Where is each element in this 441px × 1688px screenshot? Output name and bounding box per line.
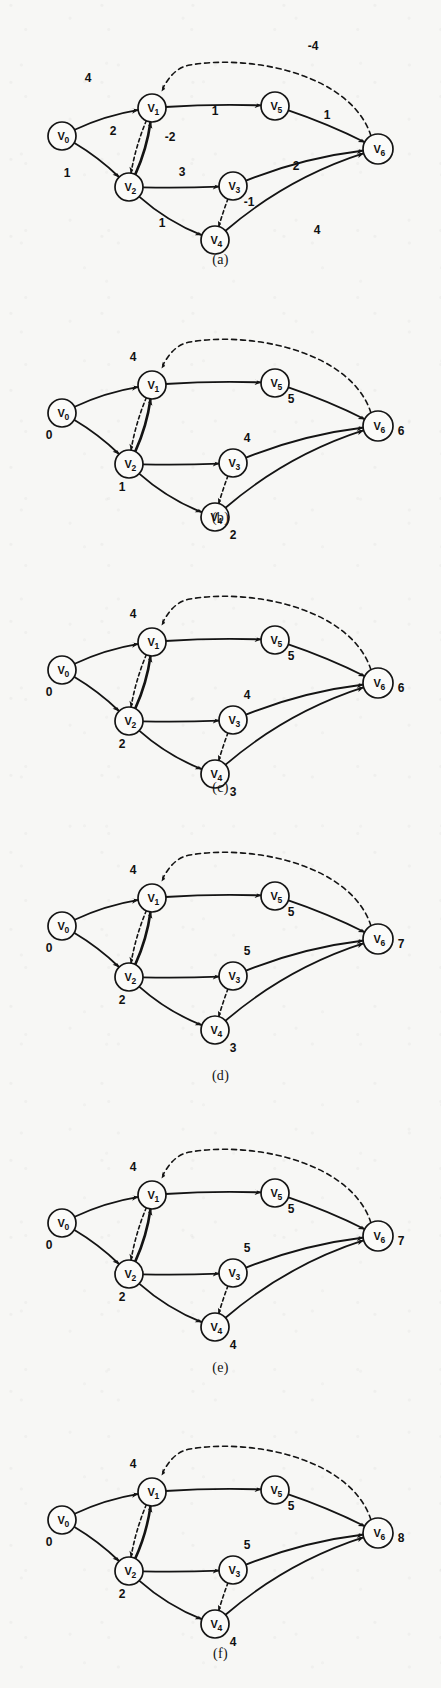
node-v4[interactable]: V4 <box>201 1610 229 1638</box>
node-distance-v2: 2 <box>119 1290 126 1304</box>
edge-v2-v1 <box>135 121 152 174</box>
node-distance-v3: 4 <box>244 431 251 445</box>
node-subscript-v2: 2 <box>132 976 137 986</box>
edge-weight-v3v6: 2 <box>293 159 300 173</box>
node-v2[interactable]: V2 <box>115 1557 143 1585</box>
node-v3[interactable]: V3 <box>219 449 247 477</box>
node-v1[interactable]: V1 <box>138 371 166 399</box>
node-v4[interactable]: V4 <box>201 226 229 254</box>
node-v0[interactable]: V0 <box>48 399 76 427</box>
edge-v0-v2 <box>74 677 120 712</box>
node-v4[interactable]: V4 <box>201 1313 229 1341</box>
node-v5[interactable]: V5 <box>261 626 289 654</box>
node-subscript-v4: 4 <box>218 1326 223 1336</box>
node-distance-v0: 0 <box>46 1535 53 1549</box>
node-v6[interactable]: V6 <box>363 134 393 164</box>
node-v0[interactable]: V0 <box>48 912 76 940</box>
node-v3[interactable]: V3 <box>219 1259 247 1287</box>
node-v5[interactable]: V5 <box>261 369 289 397</box>
node-distance-v6: 8 <box>398 1531 405 1545</box>
node-subscript-v5: 5 <box>278 639 283 649</box>
edge-v0-v1 <box>74 1492 139 1514</box>
edge-v2-v3 <box>142 1271 219 1277</box>
node-v3[interactable]: V3 <box>219 962 247 990</box>
edge-v5-v6 <box>288 900 366 932</box>
node-distance-v6: 7 <box>398 1234 405 1248</box>
node-v5[interactable]: V5 <box>261 1476 289 1504</box>
edge-v3-v6 <box>245 149 363 181</box>
node-subscript-v5: 5 <box>278 1192 283 1202</box>
node-v2[interactable]: V2 <box>115 1260 143 1288</box>
edge-v0-v1 <box>74 898 139 920</box>
graph-panel-d: V0V1V2V3V4V5V60425357 <box>0 808 441 1058</box>
panel-caption-a: (a) <box>0 252 441 268</box>
node-v4[interactable]: V4 <box>201 1016 229 1044</box>
node-v0[interactable]: V0 <box>48 1209 76 1237</box>
node-v2[interactable]: V2 <box>115 963 143 991</box>
edge-v2-v3 <box>142 974 219 980</box>
edge-v1-v5 <box>165 1189 261 1195</box>
node-subscript-v1: 1 <box>155 1194 160 1204</box>
node-subscript-v6: 6 <box>381 1532 386 1542</box>
edge-weight-v1v5: 1 <box>212 104 219 118</box>
panel-caption-f: (f) <box>0 1646 441 1662</box>
edge-v0-v2 <box>74 143 120 178</box>
edge-v3-v6 <box>245 1533 363 1565</box>
node-v0[interactable]: V0 <box>48 656 76 684</box>
node-v1[interactable]: V1 <box>138 884 166 912</box>
edge-v1-v5 <box>165 379 261 385</box>
node-distance-v3: 4 <box>244 688 251 702</box>
edge-v5-v6 <box>288 644 366 676</box>
node-v6[interactable]: V6 <box>363 1221 393 1251</box>
node-distance-v6: 6 <box>398 681 405 695</box>
node-distance-v1: 4 <box>130 350 137 364</box>
edge-weight-v5v6: 1 <box>324 108 331 122</box>
node-v1[interactable]: V1 <box>138 628 166 656</box>
edge-v3-v6 <box>245 683 363 715</box>
edge-v2-v1 <box>135 1505 152 1558</box>
node-v0[interactable]: V0 <box>48 122 76 150</box>
graph-svg: V0V1V2V3V4V5V60425457 <box>0 1105 441 1355</box>
edge-weight-v2v1: 2 <box>110 124 117 138</box>
node-v6[interactable]: V6 <box>363 411 393 441</box>
edge-v2-v3 <box>142 461 219 467</box>
edge-weight-v0v2: 1 <box>64 166 71 180</box>
node-subscript-v1: 1 <box>155 384 160 394</box>
node-v1[interactable]: V1 <box>138 94 166 122</box>
node-v3[interactable]: V3 <box>219 1556 247 1584</box>
panel-caption-b: (b) <box>0 510 441 526</box>
node-distance-v2: 2 <box>119 1587 126 1601</box>
node-subscript-v2: 2 <box>132 1273 137 1283</box>
node-subscript-v0: 0 <box>65 925 70 935</box>
edge-v2-v4 <box>139 473 202 512</box>
edge-v3-v4 <box>218 988 228 1017</box>
panel-caption-d: (d) <box>0 1068 441 1084</box>
node-v6[interactable]: V6 <box>363 668 393 698</box>
node-v6[interactable]: V6 <box>363 1518 393 1548</box>
node-subscript-v0: 0 <box>65 1519 70 1529</box>
node-distance-v0: 0 <box>46 685 53 699</box>
node-distance-v5: 5 <box>288 1499 295 1513</box>
node-v1[interactable]: V1 <box>138 1478 166 1506</box>
node-subscript-v0: 0 <box>65 412 70 422</box>
node-subscript-v3: 3 <box>236 1569 241 1579</box>
edge-v3-v4 <box>218 732 228 761</box>
node-subscript-v2: 2 <box>132 720 137 730</box>
edge-v2-v4 <box>139 196 202 235</box>
edge-weight-v0v1: 4 <box>85 71 92 85</box>
node-v6[interactable]: V6 <box>363 924 393 954</box>
node-distance-v5: 5 <box>288 905 295 919</box>
node-subscript-v4: 4 <box>218 1623 223 1633</box>
node-v3[interactable]: V3 <box>219 706 247 734</box>
node-v5[interactable]: V5 <box>261 92 289 120</box>
edge-v0-v1 <box>74 1195 139 1217</box>
edge-v3-v4 <box>218 475 228 504</box>
node-v0[interactable]: V0 <box>48 1506 76 1534</box>
node-v1[interactable]: V1 <box>138 1181 166 1209</box>
node-v2[interactable]: V2 <box>115 707 143 735</box>
node-v5[interactable]: V5 <box>261 1179 289 1207</box>
node-subscript-v4: 4 <box>218 239 223 249</box>
node-v5[interactable]: V5 <box>261 882 289 910</box>
node-v2[interactable]: V2 <box>115 173 143 201</box>
node-v2[interactable]: V2 <box>115 450 143 478</box>
